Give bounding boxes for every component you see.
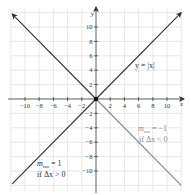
curve-label-text: y = |x|: [135, 61, 155, 70]
curve-label: y = |x|: [135, 61, 155, 70]
y-tick-label: −2: [86, 110, 93, 117]
x-tick-label: −8: [36, 102, 43, 109]
y-tick-label: −4: [86, 124, 94, 131]
abs-value-graph: −10−8−6−4−2246810108642−2−4−6−8−10 x y y…: [0, 0, 191, 195]
y-tick-label: −6: [86, 138, 94, 145]
x-tick-label: 6: [137, 102, 141, 109]
right-slope-label: mtan = −1: [138, 124, 167, 134]
x-tick-label: 4: [123, 102, 127, 109]
y-tick-label: 8: [89, 38, 92, 45]
x-tick-label: 10: [164, 102, 171, 109]
x-tick-label: −4: [64, 102, 72, 109]
y-tick-label: −8: [86, 153, 93, 160]
right-slope-value: = −1: [150, 124, 167, 133]
y-tick-label: −10: [82, 167, 92, 174]
left-slope-condition: if Δx > 0: [37, 170, 66, 179]
y-tick-label: 10: [86, 23, 93, 30]
x-axis-label: x: [179, 100, 183, 107]
x-tick-label: 8: [151, 102, 154, 109]
x-tick-label: 2: [109, 102, 112, 109]
left-slope-label: mtan = 1: [37, 159, 61, 169]
y-tick-label: 2: [89, 81, 92, 88]
x-tick-label: −10: [20, 102, 30, 109]
y-axis-label: y: [90, 10, 94, 17]
x-tick-label: −6: [50, 102, 58, 109]
left-slope-value: = 1: [49, 159, 62, 168]
origin-point: [94, 97, 98, 101]
right-slope-condition: if Δx < 0: [139, 135, 168, 144]
x-tick-label: −2: [78, 102, 85, 109]
